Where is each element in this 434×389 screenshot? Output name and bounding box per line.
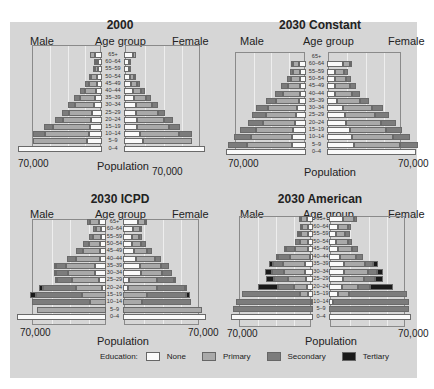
male-label: Male: [240, 35, 264, 47]
male-none-segment: [92, 110, 102, 116]
female-bar: [329, 306, 409, 312]
female-bar: [124, 59, 131, 65]
x-axis-label: Population: [97, 335, 149, 347]
age-tick-label: 60–64: [103, 58, 123, 64]
female-primary-segment: [123, 299, 142, 305]
female-secondary-segment: [145, 219, 147, 225]
male-primary-segment: [68, 270, 95, 276]
female-primary-segment: [342, 284, 358, 290]
age-tick-label: 20–24: [103, 116, 123, 122]
female-secondary-segment: [146, 95, 151, 101]
legend-label-none: None: [167, 352, 186, 361]
female-none-segment: [327, 149, 416, 155]
female-primary-segment: [337, 98, 360, 104]
male-bar: [228, 142, 306, 148]
male-bar: [68, 102, 102, 108]
male-bar: [290, 69, 306, 75]
male-primary-segment: [72, 277, 99, 283]
age-tick-label: 30–34: [307, 104, 327, 110]
male-none-segment: [101, 226, 106, 232]
male-primary-segment: [293, 69, 300, 75]
female-primary-segment: [132, 234, 139, 240]
female-bar: [327, 61, 352, 67]
female-primary-segment: [133, 52, 137, 58]
female-secondary-segment: [368, 269, 377, 275]
female-bar: [124, 131, 192, 137]
male-bar: [18, 146, 102, 152]
female-none-segment: [124, 81, 131, 87]
age-tick-label: 25–29: [307, 111, 327, 117]
age-tick-label: 30–34: [105, 269, 125, 275]
age-tick-label: 5–9: [105, 306, 125, 312]
female-bar: [123, 285, 187, 291]
male-bar: [297, 231, 313, 237]
age-tick-label: 45–49: [311, 245, 331, 251]
male-bar: [275, 91, 306, 97]
female-secondary-segment: [349, 291, 408, 297]
female-primary-segment: [338, 291, 349, 297]
female-secondary-segment: [158, 110, 165, 116]
female-bar: [329, 299, 409, 305]
age-tick-label: 60–64: [105, 225, 125, 231]
male-primary-segment: [82, 292, 106, 298]
male-none-segment: [308, 239, 313, 245]
male-primary-segment: [288, 83, 301, 89]
female-primary-segment: [133, 88, 142, 94]
age-tick-label: 10–14: [105, 298, 125, 304]
male-bar: [87, 219, 106, 225]
male-bar: [242, 291, 313, 297]
male-none-segment: [300, 83, 306, 89]
age-tick-label: 50–54: [311, 238, 331, 244]
left-tick-label: 70,000: [227, 328, 258, 339]
male-bar: [62, 110, 102, 116]
male-bar: [94, 59, 102, 65]
female-none-segment: [123, 314, 206, 320]
female-bar: [124, 81, 140, 87]
female-bar: [327, 76, 351, 82]
male-secondary-segment: [33, 131, 45, 137]
legend-label-tertiary: Tertiary: [363, 352, 389, 361]
female-bar: [123, 292, 190, 298]
female-primary-segment: [133, 226, 140, 232]
female-bar: [327, 69, 348, 75]
right-tick-label: 70,000: [398, 158, 429, 169]
male-primary-segment: [295, 246, 308, 252]
female-none-segment: [124, 95, 134, 101]
female-tertiary-segment: [174, 277, 176, 283]
female-primary-segment: [132, 241, 142, 247]
age-tick-label: 10–14: [103, 130, 123, 136]
female-primary-segment: [129, 277, 157, 283]
right-tick-label: 70,000: [398, 328, 429, 339]
female-none-segment: [123, 234, 132, 240]
male-secondary-segment: [281, 83, 288, 89]
female-none-segment: [123, 241, 132, 247]
male-none-segment: [292, 134, 306, 140]
female-primary-segment: [335, 91, 352, 97]
female-primary-segment: [123, 292, 147, 298]
female-secondary-segment: [162, 270, 172, 276]
male-secondary-segment: [266, 98, 276, 104]
female-secondary-segment: [134, 74, 136, 80]
male-none-segment: [305, 269, 313, 275]
female-none-segment: [329, 239, 336, 245]
female-none-segment: [124, 131, 140, 137]
male-bar: [231, 314, 313, 320]
age-tick-label: 40–44: [103, 87, 123, 93]
male-primary-segment: [283, 261, 305, 267]
panel-title: 2030 ICPD: [20, 192, 220, 206]
female-none-segment: [327, 61, 343, 67]
female-none-segment: [123, 248, 134, 254]
male-bar: [93, 226, 106, 232]
male-bar: [67, 256, 106, 262]
female-none-segment: [327, 105, 343, 111]
age-tick-label: 35–39: [103, 94, 123, 100]
female-primary-segment: [336, 239, 348, 245]
male-primary-segment: [93, 234, 102, 240]
male-bar: [89, 74, 102, 80]
age-tick-label: 25–29: [105, 276, 125, 282]
panel-title: 2030 American: [220, 192, 420, 206]
male-bar: [54, 263, 106, 269]
male-secondary-segment: [36, 292, 82, 298]
male-none-segment: [307, 284, 313, 290]
male-bar: [258, 284, 313, 290]
